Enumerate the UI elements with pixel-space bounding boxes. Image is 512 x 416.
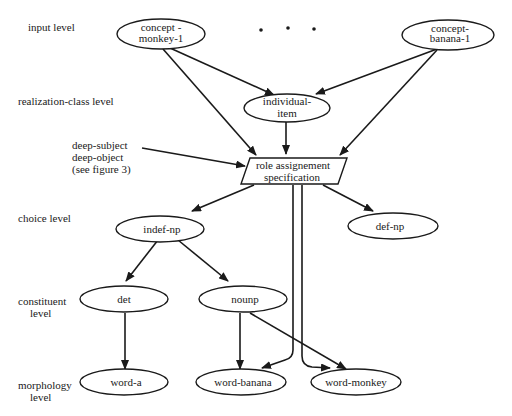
node-word-banana: word-banana [196, 369, 286, 395]
node-nounp: nounp [199, 286, 287, 312]
edge-monkey-to-individual [170, 48, 274, 95]
svg-text:det: det [117, 293, 130, 305]
label-choice-level: choice level [18, 212, 71, 224]
label-morphology-level-2: level [30, 391, 51, 403]
label-input-level: input level [28, 21, 75, 33]
svg-text:monkey-1: monkey-1 [139, 32, 184, 44]
svg-text:individual-: individual- [263, 95, 312, 107]
svg-text:def-np: def-np [376, 220, 405, 232]
node-indef-np: indef-np [116, 216, 204, 242]
edge-banana-to-role [340, 50, 437, 155]
label-morphology-level-1: morphology [18, 379, 72, 391]
node-role-assignment-specification: role assignement specification [241, 158, 347, 184]
label-realization-class-level: realization-class level [18, 95, 114, 107]
edge-annotation-to-role [142, 148, 245, 166]
node-def-np: def-np [348, 213, 438, 239]
svg-text:role assignement: role assignement [256, 159, 330, 171]
ellipsis-dot [312, 27, 316, 31]
label-constituent-level-1: constituent [18, 295, 66, 307]
label-constituent-level-2: level [30, 307, 51, 319]
edge-nounp-to-word-monkey [250, 313, 346, 369]
svg-text:word-monkey: word-monkey [325, 376, 387, 388]
edge-monkey-to-role [163, 49, 256, 155]
edge-role-to-def-np [323, 185, 373, 211]
edge-banana-to-individual [316, 49, 437, 94]
svg-text:nounp: nounp [231, 293, 259, 305]
edge-indef-np-to-det [126, 240, 158, 281]
diagram-canvas: input level realization-class level choi… [0, 0, 512, 416]
node-det: det [80, 286, 168, 312]
svg-text:indef-np: indef-np [143, 223, 181, 235]
annotation-deep-object: deep-object [72, 151, 123, 163]
svg-text:item: item [277, 107, 297, 119]
ellipsis-dot [286, 26, 290, 30]
edge-role-to-word-banana [262, 185, 293, 368]
annotation-deep-subject: deep-subject [72, 139, 128, 151]
svg-text:word-banana: word-banana [214, 376, 272, 388]
node-concept-banana: concept- banana-1 [402, 20, 494, 50]
annotation-see-figure: (see figure 3) [72, 163, 131, 176]
node-word-a: word-a [80, 369, 168, 395]
edge-indef-np-to-nounp [178, 240, 228, 281]
node-individual-item: individual- item [244, 94, 330, 122]
svg-text:banana-1: banana-1 [430, 32, 470, 44]
node-concept-monkey: concept - monkey-1 [117, 19, 205, 49]
ellipsis-dot [259, 28, 263, 32]
node-word-monkey: word-monkey [311, 369, 401, 395]
svg-text:word-a: word-a [110, 376, 141, 388]
edge-role-to-word-monkey [302, 185, 330, 368]
svg-text:specification: specification [264, 171, 321, 183]
edge-role-to-indef-np [192, 185, 254, 211]
